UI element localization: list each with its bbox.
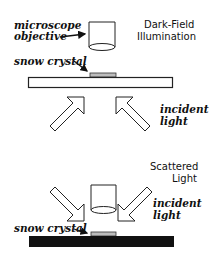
snow-crystal (90, 73, 116, 77)
scattered-light-panel: Scattered Light incident light snow crys… (14, 161, 202, 247)
crystal-label: snow crystal (14, 55, 87, 67)
incident-label-line2: light (153, 209, 181, 221)
incident-light-arrow-left (50, 97, 84, 131)
panel-title-line2: Light (172, 173, 197, 184)
illumination-diagram: microscope objective Dark-Field Illumina… (0, 0, 209, 263)
panel-title-line2: Illumination (137, 31, 196, 42)
incident-label-line1: incident (160, 103, 209, 115)
dark-background-slide (29, 236, 174, 247)
incident-label-line2: light (160, 115, 188, 127)
panel-title-line1: Dark-Field (144, 19, 194, 30)
incident-light-arrow-right (116, 97, 150, 131)
incident-light-arrow-right (118, 187, 152, 221)
snow-crystal (91, 232, 116, 236)
incident-light-arrow-left (50, 187, 84, 221)
incident-label-line1: incident (153, 197, 202, 209)
microscope-objective-icon (91, 185, 116, 214)
objective-label-line2: objective (14, 30, 67, 42)
panel-title-line1: Scattered (150, 161, 198, 172)
crystal-label: snow crystal (14, 222, 87, 234)
dark-field-panel: microscope objective Dark-Field Illumina… (14, 19, 209, 131)
microscope-objective-icon (89, 22, 115, 51)
glass-slide (29, 78, 173, 88)
